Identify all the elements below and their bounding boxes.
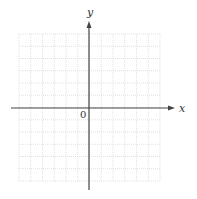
x-axis-arrow-icon [168,106,175,111]
y-axis-label: y [86,6,94,19]
origin-label: 0 [80,109,86,120]
y-axis-arrow-icon [87,21,92,28]
x-axis-label: x [179,102,186,115]
coordinate-plane: x y 0 [0,0,197,199]
